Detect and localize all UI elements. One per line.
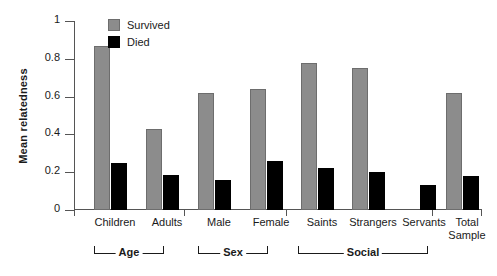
bar-total-sample-died: [463, 176, 479, 210]
y-tick-0.2: 0.2: [65, 172, 74, 173]
legend-label-survived: Survived: [127, 19, 170, 31]
bar-saints-survived: [301, 63, 317, 210]
y-tick-label-0.6: 0.6: [45, 89, 60, 101]
group-bracket-age: Age: [94, 246, 164, 258]
bar-female-died: [267, 161, 283, 210]
y-tick-0.4: 0.4: [65, 134, 74, 135]
y-tick-label-0.8: 0.8: [45, 51, 60, 63]
bar-male-survived: [198, 93, 214, 210]
group-bracket-sex: Sex: [198, 246, 268, 258]
legend: Survived Died: [108, 16, 170, 50]
legend-item-survived: Survived: [108, 16, 170, 33]
y-tick-label-0.2: 0.2: [45, 164, 60, 176]
y-axis-title: Mean relatedness: [17, 41, 29, 191]
y-tick-0.6: 0.6: [65, 97, 74, 98]
bar-adults-survived: [146, 129, 162, 210]
legend-swatch-died-icon: [108, 36, 120, 48]
bar-strangers-died: [369, 172, 385, 210]
group-bracket-social: Social: [298, 246, 428, 258]
legend-swatch-survived-icon: [108, 19, 120, 31]
legend-label-died: Died: [127, 36, 150, 48]
bar-saints-died: [318, 168, 334, 210]
group-label-social: Social: [344, 246, 382, 258]
x-label-total-sample: Total Sample: [426, 216, 497, 242]
group-label-sex: Sex: [220, 246, 246, 258]
bar-adults-died: [163, 175, 179, 210]
y-tick-label-1: 1: [54, 13, 60, 25]
bar-children-survived: [94, 46, 110, 210]
bar-children-died: [111, 163, 127, 210]
group-label-age: Age: [116, 246, 143, 258]
legend-item-died: Died: [108, 33, 170, 50]
y-axis-line: [74, 21, 75, 211]
bar-female-survived: [250, 89, 266, 210]
bar-chart: Mean relatedness 1 0.8 0.6 0.4 0.2 0: [0, 0, 497, 276]
bar-male-died: [215, 180, 231, 210]
y-tick-0.8: 0.8: [65, 59, 74, 60]
y-tick-0: 0: [65, 210, 74, 211]
y-tick-label-0: 0: [54, 202, 60, 214]
y-tick-label-0.4: 0.4: [45, 126, 60, 138]
bar-servants-died: [420, 185, 436, 210]
bar-total-sample-survived: [446, 93, 462, 210]
y-tick-1: 1: [65, 21, 74, 22]
bar-strangers-survived: [352, 68, 368, 210]
